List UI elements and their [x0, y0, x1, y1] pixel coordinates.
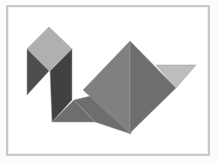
tangram-stage — [0, 0, 218, 164]
tangram-piece-body-right-large-triangle — [130, 41, 176, 133]
tangram-figure — [0, 0, 218, 164]
screenshot-canvas — [0, 0, 218, 164]
